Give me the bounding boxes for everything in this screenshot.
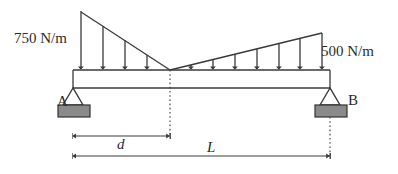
support-b-triangle bbox=[320, 88, 340, 105]
projection-lines-group bbox=[170, 70, 330, 156]
support-b-label: B bbox=[348, 93, 358, 108]
dimension-d-label: d bbox=[117, 137, 125, 152]
dimension-l-label: L bbox=[207, 140, 215, 155]
support-b-base-block bbox=[315, 105, 347, 117]
support-b-group bbox=[315, 88, 347, 117]
right-distributed-load-group bbox=[170, 33, 322, 70]
support-a-label: A bbox=[57, 94, 68, 109]
right-load-hypotenuse bbox=[170, 33, 322, 70]
beam-diagram-canvas: 750 N/m 500 N/m A B d L bbox=[0, 0, 398, 174]
right-load-magnitude-label: 500 N/m bbox=[321, 44, 374, 59]
beam-group bbox=[73, 70, 330, 88]
beam-diagram-svg bbox=[0, 0, 398, 174]
left-load-magnitude-label: 750 N/m bbox=[14, 31, 67, 46]
left-distributed-load-group bbox=[81, 11, 170, 70]
